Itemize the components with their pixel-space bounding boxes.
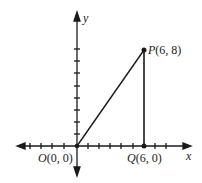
point-P-label: P(6, 8)	[147, 43, 181, 57]
point-O-name: O	[38, 151, 47, 165]
y-axis	[74, 12, 80, 176]
point-O	[75, 144, 80, 149]
coordinate-plane: y x P(6, 8) O(0, 0) Q(6, 0)	[0, 0, 202, 183]
x-axis-left-arrow-icon	[17, 143, 25, 149]
point-Q	[142, 144, 147, 149]
y-axis-label: y	[82, 11, 89, 25]
segment-OP	[77, 50, 144, 146]
point-Q-name: Q	[127, 151, 136, 165]
y-axis-up-arrow-icon	[74, 12, 80, 21]
point-Q-coords: (6, 0)	[136, 151, 162, 165]
point-Q-label: Q(6, 0)	[127, 151, 162, 165]
y-axis-down-arrow-icon	[74, 167, 80, 176]
point-P-coords: (6, 8)	[155, 43, 181, 57]
x-axis-label: x	[185, 149, 192, 163]
point-O-label: O(0, 0)	[38, 151, 73, 165]
x-axis	[17, 143, 191, 149]
point-O-coords: (0, 0)	[47, 151, 73, 165]
point-P	[142, 48, 147, 53]
